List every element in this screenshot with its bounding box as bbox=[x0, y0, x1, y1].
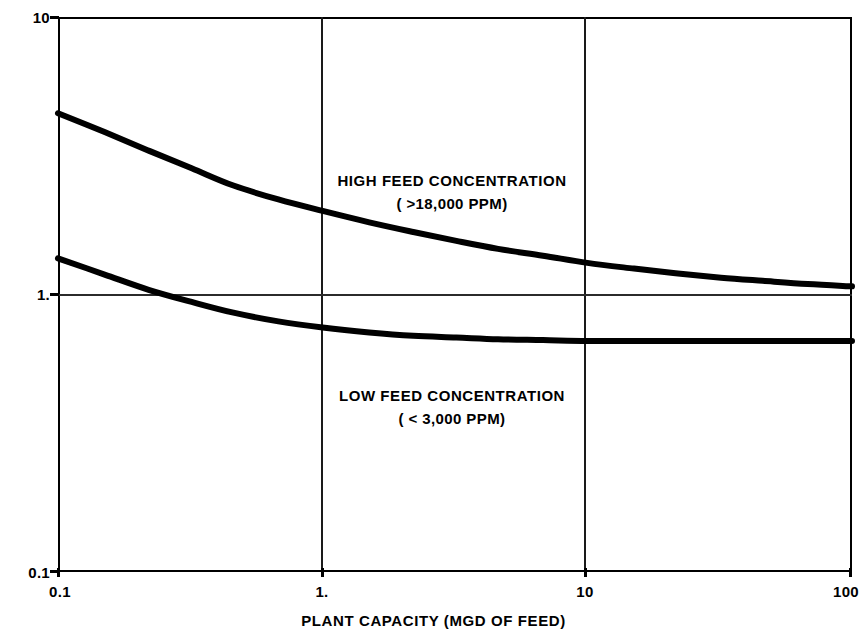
x-tick-label-10: 10 bbox=[576, 583, 593, 600]
tick-y-1 bbox=[50, 293, 59, 296]
chart-figure: 0.1 1. 10 100 10 1. 0.1 HIGH FEED CONCEN… bbox=[0, 0, 867, 642]
tick-x-100 bbox=[849, 568, 852, 577]
gridline-y-1 bbox=[58, 294, 852, 296]
annotation-low-feed: LOW FEED CONCENTRATION ( < 3,000 PPM) bbox=[339, 385, 565, 430]
x-tick-label-100: 100 bbox=[833, 583, 859, 600]
annotation-low-feed-subtitle: ( < 3,000 PPM) bbox=[339, 408, 565, 431]
x-axis-title: PLANT CAPACITY (MGD OF FEED) bbox=[0, 612, 867, 629]
annotation-low-feed-title: LOW FEED CONCENTRATION bbox=[339, 387, 565, 404]
tick-x-1 bbox=[321, 568, 324, 577]
y-tick-label-1: 1. bbox=[37, 286, 50, 303]
x-tick-label-1: 1. bbox=[315, 583, 328, 600]
annotation-high-feed: HIGH FEED CONCENTRATION ( >18,000 PPM) bbox=[337, 170, 566, 215]
x-tick-label-0.1: 0.1 bbox=[49, 583, 71, 600]
tick-y-0.1 bbox=[50, 570, 59, 573]
annotation-high-feed-subtitle: ( >18,000 PPM) bbox=[337, 193, 566, 216]
annotation-high-feed-title: HIGH FEED CONCENTRATION bbox=[337, 172, 566, 189]
y-tick-label-10: 10 bbox=[33, 9, 50, 26]
tick-x-10 bbox=[584, 568, 587, 577]
y-tick-label-0.1: 0.1 bbox=[28, 564, 50, 581]
tick-y-10 bbox=[50, 16, 59, 19]
